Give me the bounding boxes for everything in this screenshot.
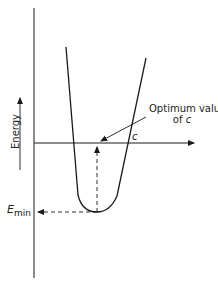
- optimum-pointer-arrow: [101, 117, 146, 141]
- emin-label-main: E: [7, 203, 14, 216]
- optimum-annotation-prefix: of: [173, 114, 186, 125]
- optimum-annotation: Optimum value of c: [149, 103, 215, 125]
- energy-curve: [66, 47, 146, 212]
- energy-axis-label: Energy: [10, 114, 21, 149]
- optimum-annotation-line1: Optimum value: [149, 103, 218, 114]
- emin-label-subscript: min: [14, 208, 31, 218]
- optimum-annotation-variable: c: [186, 114, 192, 125]
- emin-label: Emin: [7, 204, 31, 216]
- parameter-c-label: c: [132, 131, 138, 142]
- energy-diagram: [0, 0, 218, 286]
- optimum-annotation-line2: of c: [149, 114, 215, 125]
